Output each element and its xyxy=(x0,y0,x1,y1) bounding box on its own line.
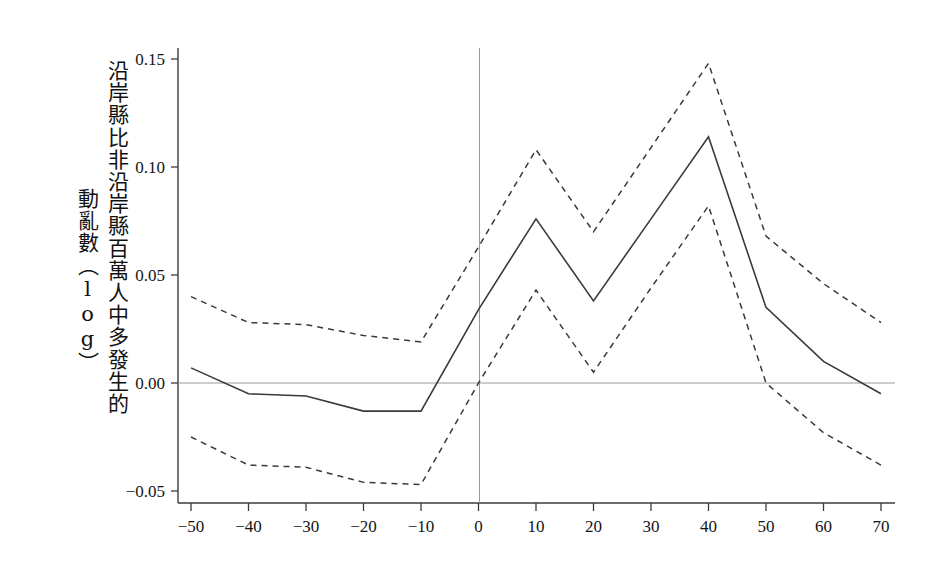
series-layer xyxy=(191,63,881,484)
x-tick-label: 60 xyxy=(815,517,832,536)
chart-figure: 沿岸縣比非沿岸縣百萬人中多發生的 動亂數（log） −0.050.000.050… xyxy=(0,0,927,575)
series-line-upper-confidence-bound xyxy=(191,63,881,342)
y-tick-label: 0.15 xyxy=(135,50,165,69)
x-tick-label: 0 xyxy=(474,517,483,536)
y-axis-label-line-1: 沿岸縣比非沿岸縣百萬人中多發生的 xyxy=(104,60,128,415)
ticks-layer: −0.050.000.050.100.15−50−40−30−20−100102… xyxy=(126,50,890,536)
y-tick-label: 0.10 xyxy=(135,158,165,177)
x-tick-label: 10 xyxy=(528,517,545,536)
y-axis-label-line-2: 動亂數（log） xyxy=(75,60,99,375)
x-tick-label: −20 xyxy=(350,517,377,536)
x-tick-label: 30 xyxy=(643,517,660,536)
x-tick-label: −40 xyxy=(235,517,262,536)
x-tick-label: −10 xyxy=(408,517,435,536)
x-tick-label: 70 xyxy=(873,517,890,536)
x-tick-label: −30 xyxy=(293,517,320,536)
axes-layer xyxy=(178,48,895,503)
plot-area: −0.050.000.050.100.15−50−40−30−20−100102… xyxy=(0,0,927,575)
y-tick-label: 0.05 xyxy=(135,266,165,285)
x-tick-label: 40 xyxy=(700,517,717,536)
x-tick-label: 50 xyxy=(758,517,775,536)
series-line-lower-confidence-bound xyxy=(191,206,881,485)
x-tick-label: −50 xyxy=(178,517,205,536)
series-line-point-estimate xyxy=(191,137,881,411)
y-axis-label: 沿岸縣比非沿岸縣百萬人中多發生的 動亂數（log） xyxy=(18,60,128,520)
y-tick-label: 0.00 xyxy=(135,374,165,393)
x-tick-label: 20 xyxy=(585,517,602,536)
y-tick-label: −0.05 xyxy=(126,482,165,501)
